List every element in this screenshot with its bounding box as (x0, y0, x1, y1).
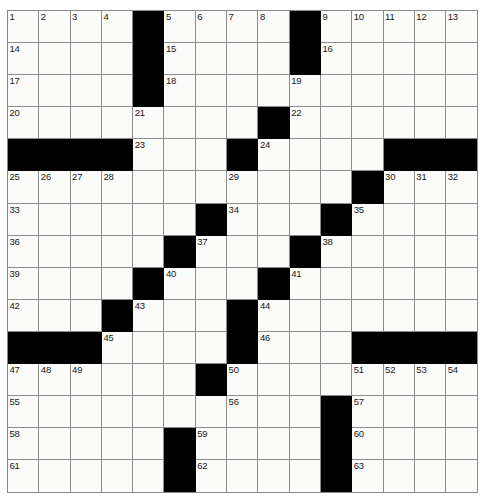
crossword-cell[interactable] (415, 75, 446, 107)
crossword-cell[interactable] (415, 268, 446, 300)
crossword-cell[interactable] (415, 43, 446, 75)
crossword-cell[interactable] (102, 268, 133, 300)
crossword-cell[interactable] (446, 75, 477, 107)
crossword-cell[interactable]: 2 (39, 11, 70, 43)
crossword-cell[interactable] (196, 268, 227, 300)
crossword-cell[interactable]: 3 (71, 11, 102, 43)
crossword-cell[interactable] (227, 43, 258, 75)
crossword-cell[interactable] (133, 428, 164, 460)
crossword-cell[interactable]: 45 (102, 332, 133, 364)
crossword-cell[interactable] (415, 204, 446, 236)
crossword-cell[interactable] (446, 396, 477, 428)
crossword-cell[interactable] (415, 428, 446, 460)
crossword-cell[interactable]: 57 (352, 396, 383, 428)
crossword-cell[interactable] (321, 300, 352, 332)
crossword-cell[interactable] (384, 204, 415, 236)
crossword-cell[interactable] (164, 139, 195, 171)
crossword-cell[interactable] (227, 236, 258, 268)
crossword-cell[interactable]: 43 (133, 300, 164, 332)
crossword-cell[interactable]: 56 (227, 396, 258, 428)
crossword-cell[interactable] (133, 332, 164, 364)
crossword-cell[interactable]: 55 (8, 396, 39, 428)
crossword-cell[interactable]: 12 (415, 11, 446, 43)
crossword-cell[interactable]: 26 (39, 171, 70, 203)
crossword-cell[interactable]: 14 (8, 43, 39, 75)
crossword-cell[interactable] (102, 107, 133, 139)
crossword-cell[interactable]: 18 (164, 75, 195, 107)
crossword-cell[interactable] (133, 236, 164, 268)
crossword-cell[interactable] (196, 332, 227, 364)
crossword-grid[interactable]: 1234567891011121314151617181920212223242… (7, 10, 478, 493)
crossword-cell[interactable]: 35 (352, 204, 383, 236)
crossword-cell[interactable] (133, 460, 164, 492)
crossword-cell[interactable]: 37 (196, 236, 227, 268)
crossword-cell[interactable]: 25 (8, 171, 39, 203)
crossword-cell[interactable] (39, 300, 70, 332)
crossword-cell[interactable] (133, 204, 164, 236)
crossword-cell[interactable] (446, 43, 477, 75)
crossword-cell[interactable] (39, 75, 70, 107)
crossword-cell[interactable] (352, 75, 383, 107)
crossword-cell[interactable]: 22 (290, 107, 321, 139)
crossword-cell[interactable]: 17 (8, 75, 39, 107)
crossword-cell[interactable] (352, 236, 383, 268)
crossword-cell[interactable] (384, 43, 415, 75)
crossword-cell[interactable] (352, 268, 383, 300)
crossword-cell[interactable] (258, 204, 289, 236)
crossword-cell[interactable] (102, 460, 133, 492)
crossword-cell[interactable] (352, 300, 383, 332)
crossword-cell[interactable] (196, 139, 227, 171)
crossword-cell[interactable] (227, 75, 258, 107)
crossword-cell[interactable] (446, 107, 477, 139)
crossword-cell[interactable]: 27 (71, 171, 102, 203)
crossword-cell[interactable]: 33 (8, 204, 39, 236)
crossword-cell[interactable] (39, 460, 70, 492)
crossword-cell[interactable]: 15 (164, 43, 195, 75)
crossword-cell[interactable]: 41 (290, 268, 321, 300)
crossword-cell[interactable] (321, 364, 352, 396)
crossword-cell[interactable]: 5 (164, 11, 195, 43)
crossword-cell[interactable]: 62 (196, 460, 227, 492)
crossword-cell[interactable]: 51 (352, 364, 383, 396)
crossword-cell[interactable] (290, 396, 321, 428)
crossword-cell[interactable] (321, 332, 352, 364)
crossword-cell[interactable] (446, 460, 477, 492)
crossword-cell[interactable] (102, 75, 133, 107)
crossword-cell[interactable] (352, 107, 383, 139)
crossword-cell[interactable] (164, 396, 195, 428)
crossword-cell[interactable]: 52 (384, 364, 415, 396)
crossword-cell[interactable] (446, 236, 477, 268)
crossword-cell[interactable] (39, 107, 70, 139)
crossword-cell[interactable] (39, 236, 70, 268)
crossword-cell[interactable]: 7 (227, 11, 258, 43)
crossword-cell[interactable]: 30 (384, 171, 415, 203)
crossword-cell[interactable] (384, 460, 415, 492)
crossword-cell[interactable] (384, 75, 415, 107)
crossword-cell[interactable] (102, 236, 133, 268)
crossword-cell[interactable] (71, 107, 102, 139)
crossword-cell[interactable] (133, 364, 164, 396)
crossword-cell[interactable] (290, 204, 321, 236)
crossword-cell[interactable] (415, 236, 446, 268)
crossword-cell[interactable] (290, 364, 321, 396)
crossword-cell[interactable] (71, 75, 102, 107)
crossword-cell[interactable] (258, 236, 289, 268)
crossword-cell[interactable]: 8 (258, 11, 289, 43)
crossword-cell[interactable] (196, 171, 227, 203)
crossword-cell[interactable] (164, 300, 195, 332)
crossword-cell[interactable]: 24 (258, 139, 289, 171)
crossword-cell[interactable] (164, 107, 195, 139)
crossword-cell[interactable] (164, 364, 195, 396)
crossword-cell[interactable]: 53 (415, 364, 446, 396)
crossword-cell[interactable] (290, 300, 321, 332)
crossword-cell[interactable] (196, 300, 227, 332)
crossword-cell[interactable]: 21 (133, 107, 164, 139)
crossword-cell[interactable]: 19 (290, 75, 321, 107)
crossword-cell[interactable] (384, 396, 415, 428)
crossword-cell[interactable] (290, 332, 321, 364)
crossword-cell[interactable] (258, 171, 289, 203)
crossword-cell[interactable] (321, 107, 352, 139)
crossword-cell[interactable]: 28 (102, 171, 133, 203)
crossword-cell[interactable] (196, 75, 227, 107)
crossword-cell[interactable] (71, 204, 102, 236)
